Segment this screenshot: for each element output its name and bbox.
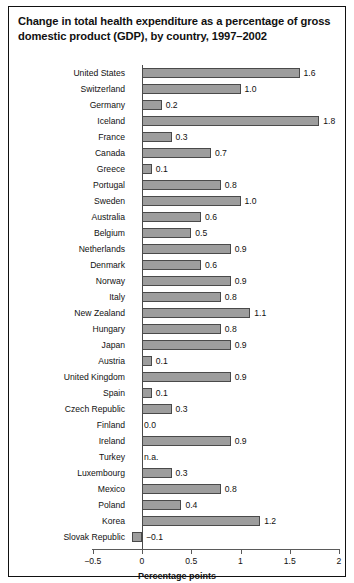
x-tick-label: 0	[140, 556, 145, 567]
bar	[142, 212, 201, 222]
category-label: Australia	[9, 209, 125, 225]
category-label: Switzerland	[9, 81, 125, 97]
bar	[142, 260, 201, 270]
category-label: United Kingdom	[9, 369, 125, 385]
bar	[142, 324, 221, 334]
category-label: Luxembourg	[9, 465, 125, 481]
x-tick-label: 2	[337, 556, 342, 567]
category-label: Greece	[9, 161, 125, 177]
category-label: Finland	[9, 417, 125, 433]
table-row: Netherlands0.9	[9, 241, 345, 257]
bar	[142, 132, 172, 142]
category-label: Spain	[9, 385, 125, 401]
table-row: Canada0.7	[9, 145, 345, 161]
table-row: Denmark0.6	[9, 257, 345, 273]
category-label: Norway	[9, 273, 125, 289]
bar	[142, 180, 221, 190]
category-label: Iceland	[9, 113, 125, 129]
table-row: Norway0.9	[9, 273, 345, 289]
bar-value-label: 0.5	[195, 225, 207, 241]
bar-value-label: 0.9	[235, 241, 247, 257]
bar-value-label: n.a.	[144, 449, 158, 465]
bar	[142, 404, 172, 414]
bar	[142, 356, 152, 366]
bar	[142, 116, 319, 126]
table-row: Iceland1.8	[9, 113, 345, 129]
bar	[142, 436, 231, 446]
bar-value-label: 0.3	[176, 129, 188, 145]
table-row: United States1.6	[9, 65, 345, 81]
table-row: Hungary0.8	[9, 321, 345, 337]
bar	[142, 148, 211, 158]
bar-value-label: 1.6	[304, 65, 316, 81]
x-tick-mark	[191, 549, 192, 554]
x-tick-label: 1.5	[284, 556, 296, 567]
bar-value-label: 0.1	[156, 161, 168, 177]
bar-value-label: 0.1	[156, 385, 168, 401]
table-row: Portugal0.8	[9, 177, 345, 193]
bar-value-label: 0.8	[225, 289, 237, 305]
table-row: New Zealand1.1	[9, 305, 345, 321]
bar-value-label: 0.4	[185, 497, 197, 513]
table-row: Sweden1.0	[9, 193, 345, 209]
x-tick-label: 0.5	[185, 556, 197, 567]
bar-value-label: 0.1	[156, 353, 168, 369]
bar-value-label: 0.8	[225, 177, 237, 193]
category-label: United States	[9, 65, 125, 81]
bar-value-label: 1.1	[254, 305, 266, 321]
table-row: Slovak Republic−0.1	[9, 529, 345, 545]
category-label: Slovak Republic	[9, 529, 125, 545]
bar-value-label: 0.9	[235, 337, 247, 353]
bar	[142, 228, 191, 238]
bar	[142, 84, 241, 94]
bar	[142, 68, 300, 78]
bar-value-label: 0.2	[166, 97, 178, 113]
bar-value-label: 0.6	[205, 209, 217, 225]
bar	[142, 308, 250, 318]
category-label: Hungary	[9, 321, 125, 337]
category-label: Netherlands	[9, 241, 125, 257]
bar-value-label: 0.8	[225, 481, 237, 497]
table-row: Greece0.1	[9, 161, 345, 177]
table-row: Spain0.1	[9, 385, 345, 401]
bar	[142, 164, 152, 174]
table-row: Austria0.1	[9, 353, 345, 369]
bar	[142, 500, 181, 510]
category-label: Belgium	[9, 225, 125, 241]
x-tick-mark	[142, 549, 143, 554]
bar-value-label: −0.1	[146, 529, 163, 545]
bar-value-label: 0.3	[176, 465, 188, 481]
bar	[142, 100, 162, 110]
figure-frame: Change in total health expenditure as a …	[8, 6, 346, 577]
table-row: Poland0.4	[9, 497, 345, 513]
x-tick-mark	[241, 549, 242, 554]
table-row: Finland0.0	[9, 417, 345, 433]
bar	[142, 372, 231, 382]
category-label: Poland	[9, 497, 125, 513]
table-row: France0.3	[9, 129, 345, 145]
chart-title: Change in total health expenditure as a …	[18, 14, 336, 43]
bar-value-label: 0.7	[215, 145, 227, 161]
table-row: Germany0.2	[9, 97, 345, 113]
category-label: Ireland	[9, 433, 125, 449]
category-label: New Zealand	[9, 305, 125, 321]
bar-value-label: 0.3	[176, 401, 188, 417]
bar-value-label: 1.0	[245, 81, 257, 97]
table-row: Korea1.2	[9, 513, 345, 529]
table-row: Australia0.6	[9, 209, 345, 225]
x-tick-mark	[93, 549, 94, 554]
bar-value-label: 1.0	[245, 193, 257, 209]
bar-value-label: 1.2	[264, 513, 276, 529]
x-tick-mark	[290, 549, 291, 554]
bar	[142, 292, 221, 302]
category-label: Denmark	[9, 257, 125, 273]
bar	[142, 516, 260, 526]
category-label: Korea	[9, 513, 125, 529]
table-row: Belgium0.5	[9, 225, 345, 241]
category-label: Turkey	[9, 449, 125, 465]
bar-value-label: 0.9	[235, 433, 247, 449]
table-row: Turkeyn.a.	[9, 449, 345, 465]
bar-value-label: 0.6	[205, 257, 217, 273]
bar-value-label: 0.8	[225, 321, 237, 337]
plot-area: United States1.6Switzerland1.0Germany0.2…	[9, 65, 345, 527]
